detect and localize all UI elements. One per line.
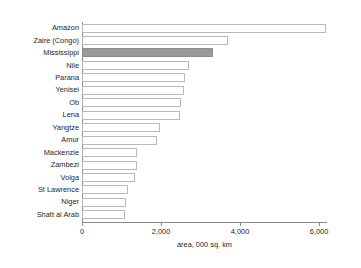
bar-category-label: Nile: [66, 62, 79, 70]
bar-row: Volga: [82, 171, 326, 183]
bar-category-label: Mississippi: [43, 49, 79, 57]
bar-category-label: Niger: [61, 198, 79, 206]
bar: [82, 111, 180, 120]
x-axis-tick-label: 6,000: [310, 227, 329, 236]
bar-category-label: Amazon: [52, 24, 79, 32]
bar-row: Amazon: [82, 22, 326, 34]
bar-row: Zambezi: [82, 159, 326, 171]
bar: [82, 198, 126, 207]
bar-category-label: Mackenzie: [44, 149, 79, 157]
bar-category-label: Parana: [55, 74, 79, 82]
bar: [82, 173, 135, 182]
x-axis-title: area, 000 sq. km: [82, 240, 327, 249]
bar-category-label: Zaire (Congo): [33, 37, 79, 45]
bar-category-label: Shatt al Arab: [37, 211, 79, 219]
bar-row: Yenisei: [82, 84, 326, 96]
bar-category-label: Yenisei: [55, 86, 79, 94]
bar-category-label: Ob: [69, 99, 79, 107]
bar: [82, 86, 184, 95]
bar: [82, 73, 185, 82]
bar: [82, 48, 213, 57]
bar-category-label: Yangtze: [52, 124, 79, 132]
bar-row: Mackenzie: [82, 147, 326, 159]
bar-chart: AmazonZaire (Congo)MississippiNileParana…: [0, 0, 361, 268]
bar: [82, 98, 181, 107]
bar-category-label: Amur: [61, 136, 79, 144]
bar-category-label: Volga: [61, 174, 80, 182]
bar: [82, 148, 137, 157]
bar: [82, 185, 128, 194]
bar: [82, 161, 137, 170]
x-axis-tick: [240, 222, 241, 226]
plot-area: AmazonZaire (Congo)MississippiNileParana…: [82, 22, 326, 222]
x-axis-tick: [161, 222, 162, 226]
x-axis-tick-label: 2,000: [152, 227, 171, 236]
bar: [82, 24, 326, 33]
bar-row: Yangtze: [82, 122, 326, 134]
bar: [82, 123, 160, 132]
bar-row: Ob: [82, 97, 326, 109]
bar-row: Parana: [82, 72, 326, 84]
x-axis-tick-label: 0: [80, 227, 84, 236]
x-axis-tick-label: 4,000: [231, 227, 250, 236]
x-axis-tick: [319, 222, 320, 226]
bar-row: Lena: [82, 109, 326, 121]
bar-row: Amur: [82, 134, 326, 146]
bar-row: St Lawrence: [82, 184, 326, 196]
bar-category-label: Zambezi: [51, 161, 79, 169]
bar-row: Zaire (Congo): [82, 34, 326, 46]
bar-category-label: Lena: [63, 111, 79, 119]
x-axis-line: [82, 222, 327, 223]
bar-row: Niger: [82, 196, 326, 208]
bar-category-label: St Lawrence: [38, 186, 79, 194]
bar: [82, 136, 157, 145]
x-axis-tick: [82, 222, 83, 226]
bar: [82, 36, 228, 45]
bar-row: Nile: [82, 59, 326, 71]
bar: [82, 61, 189, 70]
bar: [82, 210, 125, 219]
bar-row: Mississippi: [82, 47, 326, 59]
bar-row: Shatt al Arab: [82, 209, 326, 221]
